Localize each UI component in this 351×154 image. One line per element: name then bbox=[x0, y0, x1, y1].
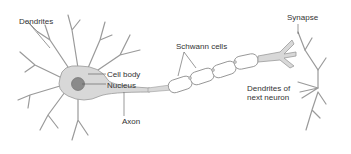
schwann-cells bbox=[167, 53, 259, 95]
label-synapse: Synapse bbox=[287, 13, 319, 22]
label-dendrites: Dendrites bbox=[19, 17, 53, 26]
label-cell-body: Cell body bbox=[107, 70, 140, 79]
axon-terminal bbox=[258, 40, 296, 68]
label-dendrites-next-2: next neuron bbox=[247, 93, 289, 102]
next-neuron-dendrites bbox=[298, 32, 326, 130]
label-dendrites-next-1: Dendrites of bbox=[247, 84, 291, 93]
label-nucleus: Nucleus bbox=[107, 81, 136, 90]
neuron-illustration: Dendrites Cell body Nucleus Axon Schwann… bbox=[0, 0, 351, 154]
neuron-diagram: Dendrites Cell body Nucleus Axon Schwann… bbox=[0, 0, 351, 154]
label-axon: Axon bbox=[122, 117, 140, 126]
label-schwann-cells: Schwann cells bbox=[176, 42, 227, 51]
